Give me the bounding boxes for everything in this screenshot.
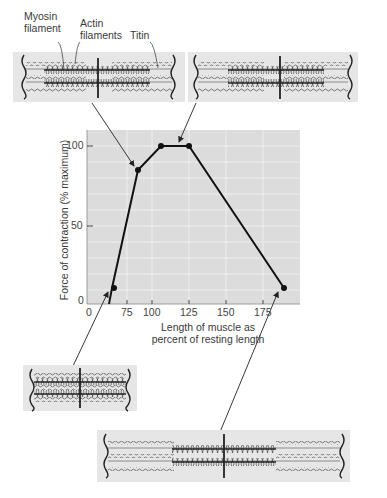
- label-actin-line1: Actin: [80, 17, 122, 29]
- sarcomere-panel-top-left: [13, 42, 185, 102]
- label-myosin-filament: Myosin filament: [24, 10, 61, 34]
- sarcomere-panel-top-right: [188, 52, 358, 102]
- y-tick-100: 100: [66, 139, 84, 151]
- y-tick-0: 0: [78, 294, 84, 306]
- label-actin-filaments: Actin filaments: [80, 17, 122, 41]
- label-titin: Titin: [130, 29, 149, 41]
- x-tick-175: 175: [254, 306, 272, 318]
- y-axis-label: Force of contraction (% maximum): [58, 130, 70, 310]
- label-myosin-line1: Myosin: [24, 10, 61, 22]
- x-axis-label-line2: percent of resting length: [128, 333, 288, 345]
- data-point: [111, 285, 117, 291]
- x-axis-label: Length of muscle as percent of resting l…: [128, 321, 288, 345]
- data-point: [158, 143, 164, 149]
- x-tick-125: 125: [180, 306, 198, 318]
- label-myosin-line2: filament: [24, 22, 61, 34]
- data-point: [281, 285, 287, 291]
- data-point: [135, 167, 141, 173]
- sarcomere-panel-bottom-left: [23, 365, 137, 411]
- sarcomere-panel-bottom-right: [97, 430, 350, 482]
- x-tick-0: 0: [86, 306, 92, 318]
- label-actin-line2: filaments: [80, 29, 122, 41]
- x-axis-label-line1: Length of muscle as: [128, 321, 288, 333]
- x-tick-100: 100: [143, 306, 161, 318]
- chart-plot-area: [87, 130, 300, 304]
- x-tick-150: 150: [217, 306, 235, 318]
- y-tick-50: 50: [71, 219, 83, 231]
- data-point: [186, 143, 192, 149]
- x-tick-75: 75: [121, 306, 133, 318]
